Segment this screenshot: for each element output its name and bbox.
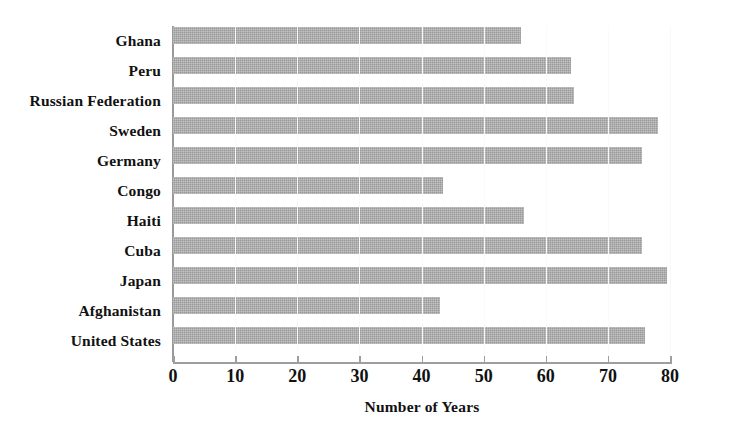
x-axis-tick [235,356,237,364]
y-axis-label: Cuba [124,236,161,266]
bar[interactable] [173,147,642,164]
x-axis-tick [484,356,486,364]
x-axis-tick [422,356,424,364]
plot-area [173,26,670,356]
x-axis-tick-label: 0 [143,366,203,387]
horizontal-bar-chart: GhanaPeruRussian FederationSwedenGermany… [0,0,729,429]
gridline-overlay [546,26,547,362]
x-axis-tick-label: 10 [205,366,265,387]
y-axis-label: Germany [97,146,161,176]
bar[interactable] [173,207,524,224]
bar[interactable] [173,87,574,104]
x-axis-tick-label: 70 [578,366,638,387]
bar[interactable] [173,327,645,344]
y-axis-label: Sweden [109,116,161,146]
x-axis-tick-label: 60 [516,366,576,387]
x-axis-tick [546,356,548,364]
x-axis-tick [173,356,175,364]
x-axis-tick-label: 50 [454,366,514,387]
bar[interactable] [173,267,667,284]
y-axis-label: Japan [120,266,161,296]
gridline-overlay [670,26,671,362]
x-axis-tick [670,356,672,364]
y-axis-label: Russian Federation [30,86,161,116]
x-axis-tick-label: 30 [329,366,389,387]
bar[interactable] [173,177,443,194]
bar[interactable] [173,297,440,314]
bar[interactable] [173,57,571,74]
x-axis-title: Number of Years [173,398,671,416]
y-axis-label: United States [71,326,161,356]
x-axis-tick-label: 80 [640,366,700,387]
y-axis-label: Congo [117,176,161,206]
bar[interactable] [173,117,658,134]
gridline-overlay [422,26,423,362]
y-axis-label: Afghanistan [78,296,161,326]
y-axis-label: Ghana [115,26,161,56]
gridline-overlay [608,26,609,362]
gridline-overlay [359,26,360,362]
gridline-overlay [297,26,298,362]
bar[interactable] [173,27,521,44]
gridline-overlay [484,26,485,362]
gridline-overlay [235,26,236,362]
y-axis-label: Peru [129,56,161,86]
x-axis-tick-label: 20 [267,366,327,387]
y-axis-label: Haiti [127,206,161,236]
x-axis-tick [297,356,299,364]
y-axis-category-labels: GhanaPeruRussian FederationSwedenGermany… [0,26,167,356]
x-axis-tick [608,356,610,364]
x-axis-tick [359,356,361,364]
x-axis-tick-label: 40 [392,366,452,387]
bar[interactable] [173,237,642,254]
